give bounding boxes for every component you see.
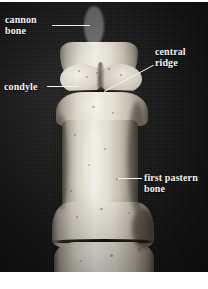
label-first-pastern-bone: first pastern bone: [144, 172, 198, 194]
specimen-photograph: cannon bone central ridge condyle first …: [0, 2, 208, 272]
anatomy-figure: cannon bone central ridge condyle first …: [0, 0, 208, 289]
label-cannon-bone: cannon bone: [5, 14, 37, 36]
photo-vignette: [0, 2, 208, 272]
label-condyle: condyle: [4, 81, 37, 92]
cannon-bone-leader-line: [52, 25, 90, 26]
first-pastern-bone-leader-line: [118, 178, 142, 179]
label-central-ridge: central ridge: [155, 46, 186, 68]
condyle-leader-line: [47, 86, 79, 87]
